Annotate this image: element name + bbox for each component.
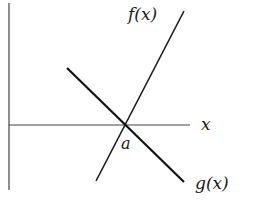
- intersection-label: a: [121, 134, 131, 153]
- diagram-canvas: f(x) x a g(x): [0, 0, 267, 205]
- f-line: [96, 11, 184, 181]
- x-axis-label: x: [201, 114, 211, 134]
- diagram-svg: f(x) x a g(x): [0, 0, 267, 205]
- g-label: g(x): [195, 173, 229, 193]
- f-label: f(x): [126, 4, 157, 24]
